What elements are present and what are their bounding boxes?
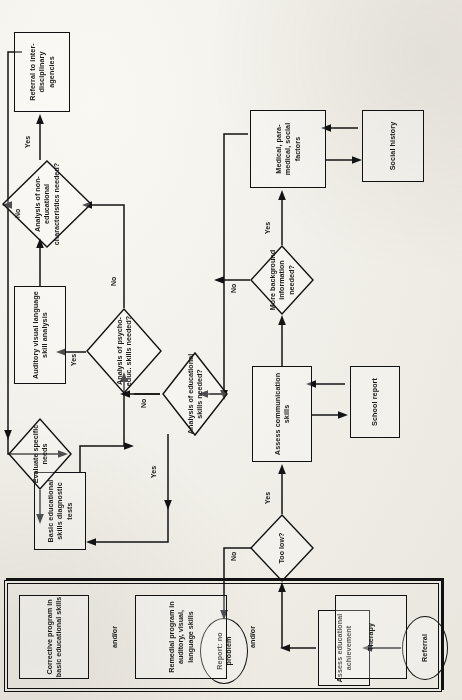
node-analysis-psycho-educ[interactable]: Analysis of psycho-educ. skills needed? (86, 308, 162, 394)
program-group-box: Corrective program in basic educational … (4, 580, 442, 692)
node-evaluate-specific-needs[interactable]: Evaluate specific needs (8, 418, 72, 490)
label-andor-2: and/or (241, 595, 263, 679)
node-label: Corrective program in basic educational … (45, 596, 64, 678)
node-referral-interdisciplinary[interactable]: Referral to inter- disciplinary agencies (14, 32, 70, 112)
edge-label-background-no: No (230, 284, 237, 293)
edge-label-psycho-yes: Yes (70, 354, 77, 366)
edge-label-background-yes: Yes (264, 222, 271, 234)
node-analysis-non-educational[interactable]: Analysis of non-educational characterist… (2, 160, 92, 248)
node-label: Assess communication skills (273, 369, 292, 459)
node-therapy[interactable]: Therapy (335, 595, 407, 679)
scanned-page: Referral Assess educational achievement … (0, 0, 462, 700)
edge-label-noneduc-no: No (14, 209, 21, 218)
node-assess-communication-skills[interactable]: Assess communication skills (252, 366, 312, 462)
node-corrective-program[interactable]: Corrective program in basic educational … (19, 595, 89, 679)
edge-label-noneduc-yes: Yes (24, 136, 31, 148)
node-more-background-information[interactable]: More background information needed? (250, 245, 314, 315)
node-remedial-program[interactable]: Remedial program in auditory, visual, la… (135, 595, 227, 679)
node-too-low[interactable]: Too low? (250, 514, 314, 582)
node-label: Medical, para-medical, social factors (274, 113, 303, 185)
edge-label-edu-skills-yes: Yes (150, 466, 157, 478)
edge-label-edu-skills-no: No (140, 399, 147, 408)
node-auditory-visual-language[interactable]: Auditory visual language skill analysis (14, 286, 66, 384)
label-andor-1: and/or (103, 595, 125, 679)
edge-label-psycho-no: No (110, 277, 117, 286)
node-label: Remedial program in auditory, visual, la… (167, 596, 196, 678)
flowchart-canvas: Referral Assess educational achievement … (0, 0, 462, 700)
node-analysis-educational-skills[interactable]: Analysis of educational skills needed? (162, 352, 228, 436)
node-label: Auditory visual language skill analysis (31, 289, 50, 381)
node-label: Therapy (366, 623, 376, 651)
node-medical-factors[interactable]: Medical, para-medical, social factors (250, 110, 326, 188)
node-label: School report (370, 378, 380, 426)
edge-label-too-low-no: No (230, 552, 237, 561)
node-label: Referral to inter- disciplinary agencies (28, 35, 57, 109)
node-school-report[interactable]: School report (350, 366, 400, 438)
node-social-history[interactable]: Social history (362, 110, 424, 182)
edge-label-too-low-yes: Yes (264, 492, 271, 504)
node-label: Social history (388, 122, 398, 171)
